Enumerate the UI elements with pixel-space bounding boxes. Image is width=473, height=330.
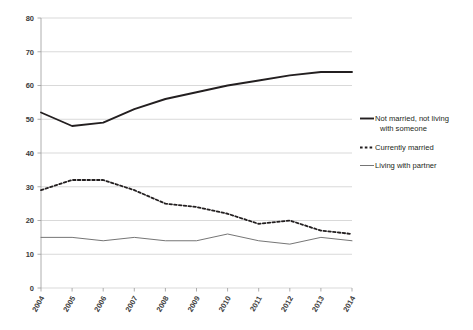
x-axis-tick-labels: 2004200520062007200820092010201120122013… <box>30 294 358 314</box>
y-tick-label-70: 70 <box>26 48 34 57</box>
legend-label-2[interactable]: Living with partner <box>375 161 437 170</box>
x-tick-label-2009: 2009 <box>186 295 202 314</box>
x-tick-label-2006: 2006 <box>92 295 108 314</box>
legend-label-1[interactable]: Currently married <box>375 143 434 152</box>
chart-legend: Not married, not livingwith someoneCurre… <box>360 114 449 170</box>
x-tick-label-2012: 2012 <box>279 295 295 314</box>
legend-label-0-line2[interactable]: with someone <box>379 124 427 133</box>
x-tick-label-2007: 2007 <box>123 295 139 314</box>
y-axis-tick-labels: 80706050403020100 <box>26 14 34 293</box>
legend-label-0[interactable]: Not married, not living <box>375 114 449 123</box>
x-tick-label-2013: 2013 <box>310 295 326 314</box>
y-tick-label-40: 40 <box>26 149 34 158</box>
y-tick-label-10: 10 <box>26 250 34 259</box>
x-tick-label-2004: 2004 <box>30 294 47 314</box>
chart-canvas: 80706050403020100 2004200520062007200820… <box>0 0 473 330</box>
y-tick-label-60: 60 <box>26 81 34 90</box>
y-tick-label-80: 80 <box>26 14 34 23</box>
x-tick-label-2010: 2010 <box>217 295 233 314</box>
line-chart: 80706050403020100 2004200520062007200820… <box>0 0 473 330</box>
x-axis-ticks <box>41 288 352 292</box>
x-tick-label-2011: 2011 <box>248 295 264 314</box>
y-tick-label-50: 50 <box>26 115 34 124</box>
y-tick-label-0: 0 <box>30 284 34 293</box>
x-tick-label-2008: 2008 <box>154 295 170 314</box>
x-tick-label-2014: 2014 <box>341 294 358 314</box>
x-tick-label-2005: 2005 <box>61 295 77 314</box>
y-tick-label-20: 20 <box>26 216 34 225</box>
y-tick-label-30: 30 <box>26 183 34 192</box>
